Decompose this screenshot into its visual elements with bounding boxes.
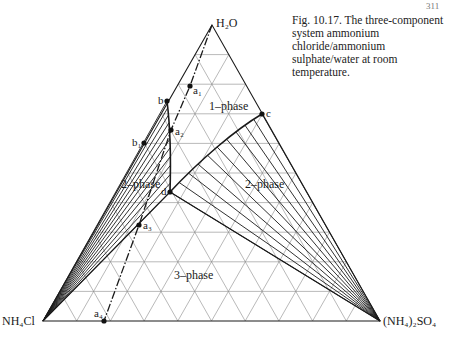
ternary-phase-diagram: H₂O NH₄Cl (NH₄)₂SO₄ 1–phase 2–phase 2–ph… [0,0,451,338]
solubility-curve-nh4cl [167,101,170,192]
tie-line [217,147,380,321]
grid-line [212,173,297,321]
vertex-label-h2o: H₂O [216,16,238,30]
tie-line [254,119,380,321]
point-label-d: d [161,185,167,197]
point-a1 [187,83,192,88]
point-b [164,98,169,103]
point-label-b1: b₁ [132,136,142,148]
grid-line [144,114,262,321]
tie-line [208,155,380,321]
point-a3 [136,222,141,227]
vertex-label-nh4so4: (NH₄)₂SO₄ [383,314,436,328]
points [101,83,264,323]
point-a2 [168,127,173,132]
boundary-d-nh4so4 [170,192,380,321]
point-a4 [101,318,106,323]
region-label-2-phase-right: 2–phase [245,177,284,191]
point-b1 [141,140,146,145]
tie-line [198,164,380,321]
region-label-1-phase: 1–phase [209,99,248,113]
vertex-label-nh4cl: NH₄Cl [2,314,36,328]
point-label-b: b [158,94,164,106]
tie-lines-nh4so4 [170,114,380,321]
tie-line [43,148,170,321]
point-label-a3: a₃ [143,219,152,231]
region-label-2-phase-left: 2–phase [121,177,160,191]
point-label-c: c [266,107,271,119]
boundary-d-nh4cl [43,192,170,321]
region-label-3-phase: 3–phase [174,268,213,282]
point-label-a2: a₂ [175,125,184,137]
tie-line [43,183,170,321]
point-c [259,111,264,116]
tie-line [227,139,380,321]
point-label-a1: a₁ [193,84,202,96]
tie-line [43,174,170,321]
point-d [167,189,172,194]
point-label-a4: a₄ [94,307,103,319]
